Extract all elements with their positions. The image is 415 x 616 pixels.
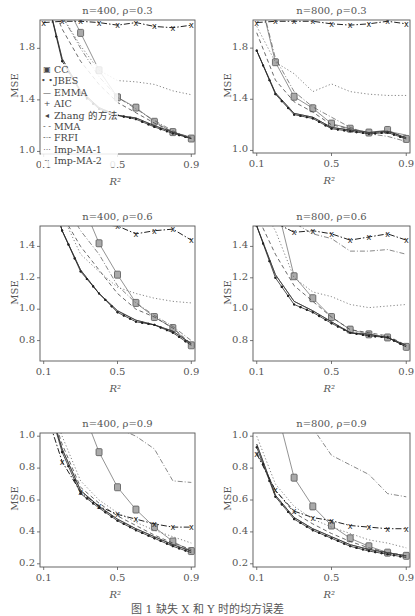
series-marker [268,260,270,262]
series-marker [43,387,45,389]
series-marker [281,100,283,102]
series-marker [115,484,121,491]
series-marker [343,329,345,331]
series-marker [104,511,106,513]
series-marker [380,132,382,134]
series-marker [306,309,308,311]
series-marker: x [78,17,83,26]
y-tick-label: 1.4 [14,239,35,250]
series-marker: x [404,236,409,245]
series-marker: x [385,525,390,534]
series-marker [141,121,143,123]
series-marker [256,446,258,448]
legend-symbol-icon: ◂ [41,110,53,121]
series-line [257,226,407,345]
series-marker [123,314,125,316]
x-axis-label: R² [324,383,336,394]
series-marker: x [170,24,175,33]
figure-caption: 图 1 缺失 X 和 Y 时的均方误差 [0,600,415,616]
series-marker [172,545,174,547]
series-line [44,168,192,345]
series-line [44,388,192,549]
series-marker [79,270,81,272]
series-marker [386,553,388,555]
series-marker [310,295,316,302]
series-marker [293,114,295,116]
series-line [44,168,192,303]
y-tick-label: 1.8 [227,41,248,52]
series-marker: x [152,520,157,529]
series-marker [374,551,376,553]
series-marker: x [292,228,297,237]
series-marker [291,93,297,100]
series-line [257,26,407,95]
series-marker [262,64,264,66]
series-marker [133,506,139,513]
y-tick-label: 1.0 [227,429,248,440]
series-marker [291,474,297,481]
series-marker [116,520,118,522]
x-tick-label: 0.9 [396,366,415,377]
legend-item: ···Imp-MA-1 [41,144,118,155]
series-marker [135,321,137,323]
series-marker: x [170,523,175,532]
series-marker [299,306,301,308]
legend-label: EMMA [54,87,87,98]
series-marker [178,336,180,338]
series-marker [349,332,351,334]
series-line [44,168,192,344]
series-marker: x [189,236,194,245]
x-tick-label: 0.1 [247,158,267,169]
x-tick-label: 0.1 [34,572,54,583]
series-marker [281,503,283,505]
series-group: xxxxxxx [256,168,410,350]
y-tick-label: 0.2 [227,557,248,568]
series-marker [291,273,297,280]
series-marker [310,503,316,510]
legend-symbol-icon: -· [41,155,53,166]
series-marker: x [348,236,353,245]
series-marker [299,522,301,524]
series-marker [98,292,100,294]
y-tick-label: 1.0 [14,144,35,155]
x-tick-label: 0.1 [34,366,54,377]
series-marker [166,130,168,132]
x-tick-label: 0.5 [108,572,128,583]
legend-label: Imp-MA-2 [54,155,102,166]
panel-title: n=400, ρ=0.6 [40,211,195,222]
series-marker [178,547,180,549]
series-marker: x [367,233,372,242]
series-marker [104,299,106,301]
series-marker [374,132,376,134]
plot-frame [40,226,195,361]
series-marker [362,334,364,336]
series-marker [86,278,88,280]
y-tick-label: 1.4 [227,239,248,250]
series-marker: x [115,222,120,231]
series-marker [55,431,57,433]
series-marker [133,104,139,111]
panel-title: n=800, ρ=0.9 [253,418,410,429]
series-marker [55,35,57,37]
series-marker [49,188,51,190]
y-tick-label: 0.8 [227,334,248,345]
series-marker [256,50,258,52]
x-tick-label: 0.9 [396,158,415,169]
series-marker [368,335,370,337]
series-marker [330,322,332,324]
series-marker [43,387,45,389]
x-tick-label: 0.9 [181,572,201,583]
series-marker [306,526,308,528]
series-marker [380,336,382,338]
legend-label: FRFI [54,132,78,143]
y-tick-label: 0.4 [227,525,248,536]
series-marker [153,126,155,128]
series-marker [160,540,162,542]
series-marker [129,318,131,320]
series-marker [268,79,270,81]
legend-item: ◂Zhang 的方法 [41,110,118,121]
series-line [44,388,192,552]
series-marker: x [60,17,65,26]
legend-label: Zhang 的方法 [54,110,118,121]
series-marker [355,131,357,133]
